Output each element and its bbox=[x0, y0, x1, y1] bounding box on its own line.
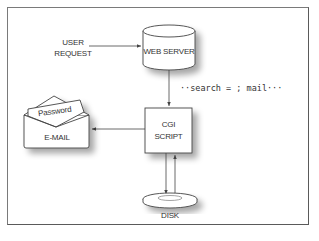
disk-node bbox=[143, 193, 197, 208]
svg-text:USER: USER bbox=[62, 38, 84, 47]
web-server-label: WEB SERVER bbox=[143, 47, 195, 56]
cgi-script-node bbox=[145, 108, 192, 153]
svg-text:REQUEST: REQUEST bbox=[54, 49, 92, 58]
svg-text:SCRIPT: SCRIPT bbox=[154, 132, 182, 141]
user-request-label: USER REQUEST bbox=[54, 38, 92, 58]
query-annotation: ··search = ; mail··· bbox=[180, 83, 282, 93]
svg-text:CGI: CGI bbox=[162, 120, 176, 129]
email-label: E-MAIL bbox=[44, 133, 70, 142]
diagram-canvas: USER REQUEST WEB SERVER ··search = ; mai… bbox=[0, 0, 319, 241]
disk-label: DISK bbox=[161, 211, 180, 220]
